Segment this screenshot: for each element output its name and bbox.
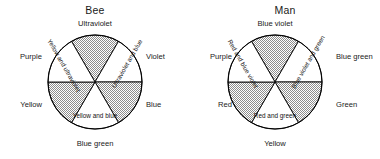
inner-label-bee-bottom: Yellow and blue [67,112,123,120]
outer-label-man-upper-right: Blue green [336,53,373,61]
outer-label-bee-lower-right: Blue [146,101,161,109]
outer-label-bee-top: Ultraviolet [0,20,190,28]
outer-label-man-bottom: Yellow [180,140,370,148]
outer-label-bee-upper-right: Violet [146,53,165,61]
outer-label-bee-upper-left: Purple [20,53,42,61]
outer-label-man-top: Blue violet [180,20,370,28]
inner-label-man-bottom: Red and green [247,112,303,120]
wheel-panel-bee: Bee [0,0,190,159]
outer-label-man-upper-left: Purple [210,53,232,61]
color-vision-figure: Bee [0,0,380,159]
outer-label-bee-lower-left: Yellow [20,101,42,109]
outer-label-man-lower-left: Red [218,101,232,109]
wheel-panel-man: Man Blue violet Blue green Green [190,0,380,159]
outer-label-bee-bottom: Blue green [0,140,190,148]
outer-label-man-lower-right: Green [336,101,357,109]
